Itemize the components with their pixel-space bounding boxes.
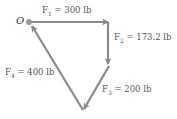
origin-label: O: [16, 15, 24, 26]
label-f2: F2 = 173.2 lb: [114, 32, 171, 44]
label-f3: F3 = 200 lb: [102, 84, 151, 96]
origin-point: [26, 19, 32, 25]
label-f4: F4 = 400 lb: [5, 67, 54, 79]
force-diagram: [0, 0, 177, 119]
label-f1: F1 = 300 lb: [42, 5, 91, 17]
